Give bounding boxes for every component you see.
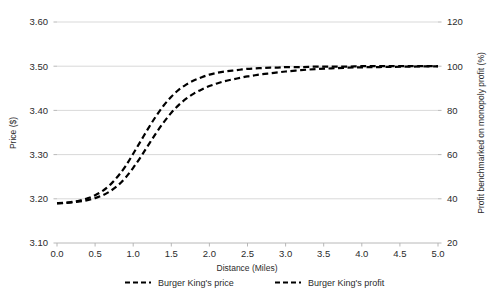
- chart-container: 3.103.203.303.403.503.60 20406080100120 …: [0, 0, 497, 301]
- x-tick-marks-group: [57, 243, 438, 247]
- x-tick-label-5.0: 5.0: [431, 248, 444, 259]
- x-tick-label-0.5: 0.5: [88, 248, 101, 259]
- x-tick-label-2.0: 2.0: [203, 248, 216, 259]
- x-tick-label-3.0: 3.0: [279, 248, 292, 259]
- x-tick-label-1.5: 1.5: [165, 248, 178, 259]
- series-lines-group: [57, 66, 438, 203]
- chart-legend: Burger King's priceBurger King's profit: [125, 278, 385, 288]
- gridlines-group: [57, 22, 438, 243]
- x-axis-tick-labels-group: 0.00.51.01.52.02.53.03.54.04.55.0: [50, 248, 444, 259]
- y-tick-label-3.60: 3.60: [30, 16, 49, 27]
- y2-axis-title: Profit benchmarked on monopoly profit (%…: [476, 52, 486, 214]
- y-tick-label-3.50: 3.50: [30, 61, 49, 72]
- y2-axis-tick-labels-group: 20406080100120: [438, 16, 463, 248]
- series-line-price: [57, 66, 438, 203]
- y-tick-label-3.30: 3.30: [30, 149, 49, 160]
- chart-figure: 3.103.203.303.403.503.60 20406080100120 …: [0, 0, 497, 301]
- y-tick-label-3.40: 3.40: [30, 105, 49, 116]
- legend-label-profit: Burger King's profit: [308, 278, 385, 288]
- legend-label-price: Burger King's price: [158, 278, 234, 288]
- y-axis-title: Price ($): [8, 117, 18, 149]
- y-tick-label-3.10: 3.10: [30, 237, 49, 248]
- x-tick-label-1.0: 1.0: [127, 248, 140, 259]
- x-tick-label-4.5: 4.5: [393, 248, 406, 259]
- series-line-profit: [57, 66, 438, 203]
- x-tick-label-4.0: 4.0: [355, 248, 368, 259]
- x-tick-label-0.0: 0.0: [50, 248, 63, 259]
- y2-tick-label-20: 20: [447, 237, 458, 248]
- y-tick-label-3.20: 3.20: [30, 193, 49, 204]
- y2-tick-label-120: 120: [447, 16, 463, 27]
- y-axis-tick-labels-group: 3.103.203.303.403.503.60: [30, 16, 58, 248]
- y2-tick-label-40: 40: [447, 193, 458, 204]
- x-tick-label-2.5: 2.5: [241, 248, 254, 259]
- x-tick-label-3.5: 3.5: [317, 248, 330, 259]
- y2-tick-label-100: 100: [447, 61, 463, 72]
- y2-tick-label-60: 60: [447, 149, 458, 160]
- x-axis-title: Distance (Miles): [217, 263, 278, 273]
- y2-tick-label-80: 80: [447, 105, 458, 116]
